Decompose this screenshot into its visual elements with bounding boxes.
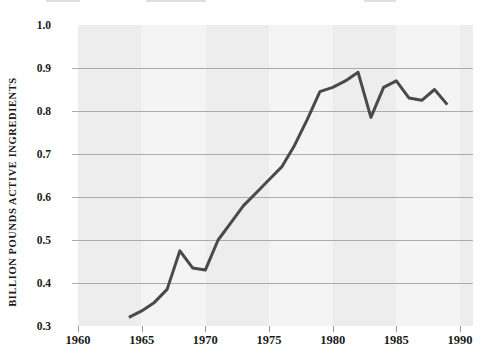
y-axis-tick-label: 0.9 xyxy=(37,62,52,74)
plot-background-band xyxy=(142,25,206,326)
x-axis-tick-label: 1960 xyxy=(66,333,91,347)
x-axis-tick-label: 1980 xyxy=(320,333,345,347)
y-axis-tick-label: 1.0 xyxy=(37,19,52,31)
y-axis-tick-label: 0.8 xyxy=(37,105,52,117)
x-axis-tick-label: 1975 xyxy=(257,333,282,347)
y-axis-tick-label: 0.6 xyxy=(37,191,52,203)
x-axis-tick-label: 1990 xyxy=(448,333,473,347)
y-axis-title: BILLION POUNDS ACTIVE INGREDIENTS xyxy=(7,77,18,307)
y-axis-tick-label: 0.5 xyxy=(37,234,52,246)
x-axis-tick-label: 1965 xyxy=(129,333,154,347)
chart-figure: 0.30.40.50.60.70.80.91.01960196519701975… xyxy=(0,0,489,360)
x-axis-tick-label: 1985 xyxy=(384,333,409,347)
plot-background-band xyxy=(269,25,333,326)
y-axis-tick-label: 0.7 xyxy=(37,148,52,160)
plot-background-band xyxy=(333,25,397,326)
plot-background-band xyxy=(460,25,473,326)
y-axis-tick-label: 0.4 xyxy=(37,277,52,289)
plot-background-band xyxy=(78,25,142,326)
plot-background-band xyxy=(396,25,460,326)
line-chart: 0.30.40.50.60.70.80.91.01960196519701975… xyxy=(0,0,489,360)
x-axis-tick-label: 1970 xyxy=(193,333,218,347)
y-axis-tick-label: 0.3 xyxy=(37,320,52,332)
plot-background-band xyxy=(205,25,269,326)
